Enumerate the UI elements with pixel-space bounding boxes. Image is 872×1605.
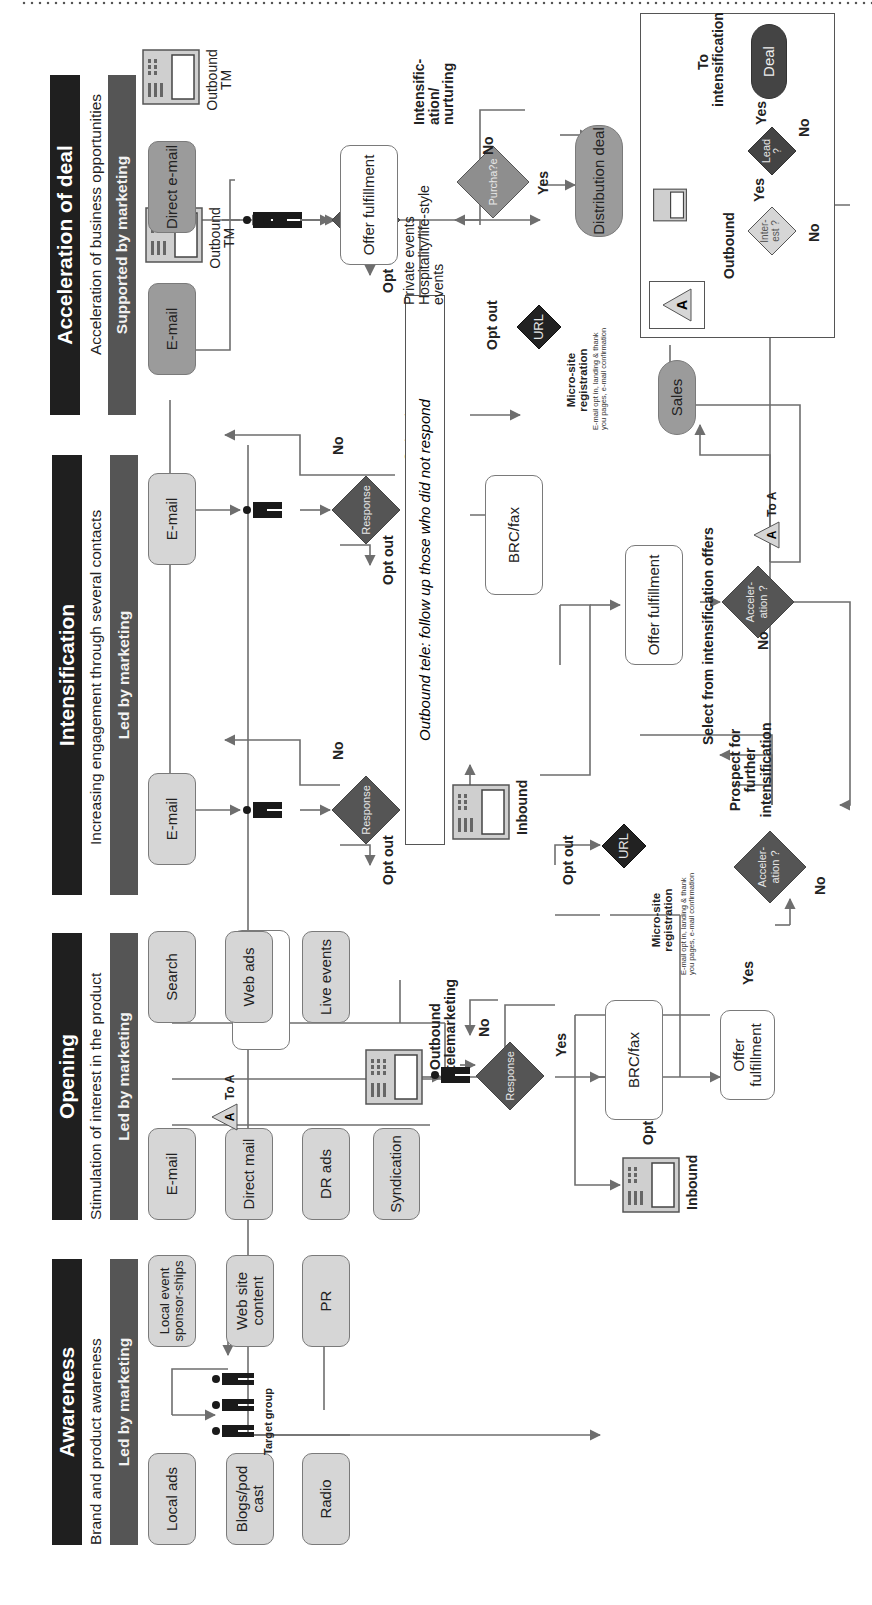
svg-text:Inter-: Inter- <box>759 219 770 242</box>
opening-header: Opening <box>52 933 82 1220</box>
acceleration-email: E-mail <box>148 283 196 375</box>
intensification-offer-fulfillment: Offer fulfillment <box>625 545 683 665</box>
acceleration-offer-fulfillment: Offer fulfillment <box>340 145 398 265</box>
person-icon <box>430 1062 470 1088</box>
intensification-acceleration-decision: Acceler- ation ? <box>720 564 796 640</box>
svg-text:Acceler-: Acceler- <box>756 846 768 887</box>
lead-decision: Lead ? <box>746 125 798 177</box>
opening-channel-web-ads: Web ads <box>225 931 273 1023</box>
opening-channel-search: Search <box>148 931 196 1023</box>
svg-text:est ?: est ? <box>770 220 781 242</box>
target-group-icon <box>210 1361 260 1445</box>
svg-text:?: ? <box>772 148 783 154</box>
channel-radio: Radio <box>302 1453 350 1545</box>
opening-channel-dr-ads: DR ads <box>302 1128 350 1220</box>
intensification-microsite-title: Micro-site registration <box>565 335 589 425</box>
inset-yes-label-1: Yes <box>751 178 767 202</box>
phone-icon <box>622 1157 680 1213</box>
inset-no-label-2: No <box>796 118 812 137</box>
opening-offer-fulfillment: Offer fulfillment <box>720 1010 775 1100</box>
distribution-deal-terminal: Distribution deal <box>575 125 623 237</box>
opening-microsite-note: E-mail opt in, landing & thank you pages… <box>680 870 697 975</box>
intensification-opt-out-1: Opt out <box>380 835 396 885</box>
opening-opt-out-2: Opt out <box>560 835 576 885</box>
opening-inbound-label: Inbound <box>684 1155 700 1210</box>
intensification-acceleration-no-label: No <box>755 631 771 650</box>
inset-deal-terminal: Deal <box>751 24 787 99</box>
awareness-lead-bar: Led by marketing <box>110 1259 138 1545</box>
connector-triangle-a: A <box>752 520 782 550</box>
purchase-decision: Purcha?e <box>455 144 531 220</box>
opening-lead-bar: Led by marketing <box>110 933 138 1220</box>
opening-brc-fax: BRC/fax <box>605 1000 663 1120</box>
acceleration-lead-bar: Supported by marketing <box>108 75 136 415</box>
svg-text:A: A <box>223 1112 237 1121</box>
phone-icon <box>365 1049 423 1105</box>
intensification-url-decision: URL <box>515 303 563 351</box>
svg-text:Acceler-: Acceler- <box>744 581 756 622</box>
svg-text:A: A <box>674 300 690 310</box>
inset-outbound-label: Outbound <box>721 212 737 279</box>
svg-text:Response: Response <box>360 785 372 835</box>
purchase-no-label: No <box>480 136 496 155</box>
svg-text:ation ?: ation ? <box>769 850 781 883</box>
opening-channel-live-events: Live events <box>302 931 350 1023</box>
awareness-header: Awareness <box>52 1259 82 1545</box>
sales-terminal: Sales <box>658 360 696 435</box>
opening-microsite-title: Micro-site registration <box>650 875 674 965</box>
inset-no-label-1: No <box>806 223 822 242</box>
svg-text:ation ?: ation ? <box>757 585 769 618</box>
connector-triangle-a: A <box>210 1102 240 1132</box>
intensification-brc-fax: BRC/fax <box>485 475 543 595</box>
target-group-label: Target group <box>262 1388 274 1455</box>
purchase-yes-label: Yes <box>535 171 551 195</box>
diagram-canvas: Awareness Brand and product awareness Le… <box>0 0 872 1605</box>
nurture-label: Intensific-ation/ nurturing <box>412 25 456 125</box>
intensification-email-2: E-mail <box>148 473 196 565</box>
svg-text:Lead: Lead <box>760 139 772 163</box>
acceleration-outbound-tm-label: Outbound TM <box>205 45 233 115</box>
phone-icon <box>452 784 510 840</box>
intensification-email-1: E-mail <box>148 773 196 865</box>
svg-text:Response: Response <box>360 485 372 535</box>
interest-decision: Inter- est ? <box>746 205 798 257</box>
acceleration-subtitle: Acceleration of business opportunities <box>86 55 106 355</box>
channel-pr: PR <box>302 1255 350 1347</box>
acceleration-inset-panel: A Outbound Inter- est ? Yes No Lead ? Ye… <box>640 13 835 338</box>
opening-subtitle: Stimulation of interest in the product <box>86 920 106 1220</box>
svg-text:Response: Response <box>504 1051 516 1101</box>
opening-yes-label: Yes <box>553 1033 569 1057</box>
intensification-opt-out-5: Opt out <box>484 300 500 350</box>
channel-web-site-content: Web site content <box>226 1255 274 1347</box>
opening-acceleration-decision: Acceler- ation ? <box>732 829 808 905</box>
opening-channel-syndication: Syndication <box>373 1128 420 1220</box>
opening-acceleration-yes-label: Yes <box>740 961 756 985</box>
intensification-no-label-2: No <box>330 436 346 455</box>
acceleration-direct-email: Direct e-mail <box>148 141 196 233</box>
intensification-opt-out-2: Opt out <box>380 535 396 585</box>
awareness-subtitle: Brand and product awareness <box>86 1245 106 1545</box>
prospect-further-intensification-label: Prospect for further intensification <box>728 705 774 835</box>
intensification-subtitle: Increasing engagement through several co… <box>86 465 106 845</box>
channel-blogs-podcast: Blogs/pod cast <box>226 1453 274 1545</box>
intensification-to-a-label: To A <box>765 492 779 517</box>
intensification-inbound-label: Inbound <box>514 780 530 835</box>
channel-local-event-sponsorships: Local event sponsor-ships <box>148 1255 196 1347</box>
svg-text:Purcha?e: Purcha?e <box>487 158 499 205</box>
phone-icon <box>653 188 687 222</box>
channel-local-ads: Local ads <box>148 1453 196 1545</box>
person-icon <box>242 797 282 823</box>
opening-response-decision: Response <box>474 1040 546 1112</box>
outbound-followup-box: Outbound tele: follow up those who did n… <box>405 295 445 845</box>
to-intensification-label: To intensification <box>696 17 727 107</box>
opening-acceleration-no-label: No <box>812 876 828 895</box>
svg-text:URL: URL <box>616 833 631 859</box>
outbound-telemarketing-label: Outbound telemarketing <box>428 990 457 1070</box>
opening-no-label: No <box>476 1018 492 1037</box>
svg-text:A: A <box>765 530 779 539</box>
intensification-no-label-1: No <box>330 741 346 760</box>
person-icon <box>242 497 282 523</box>
intensification-outbound-tm-label: Outbound TM <box>208 203 236 273</box>
phone-icon <box>142 49 200 105</box>
acceleration-offer-note: Private events Hospitality/life-style ev… <box>402 155 446 305</box>
